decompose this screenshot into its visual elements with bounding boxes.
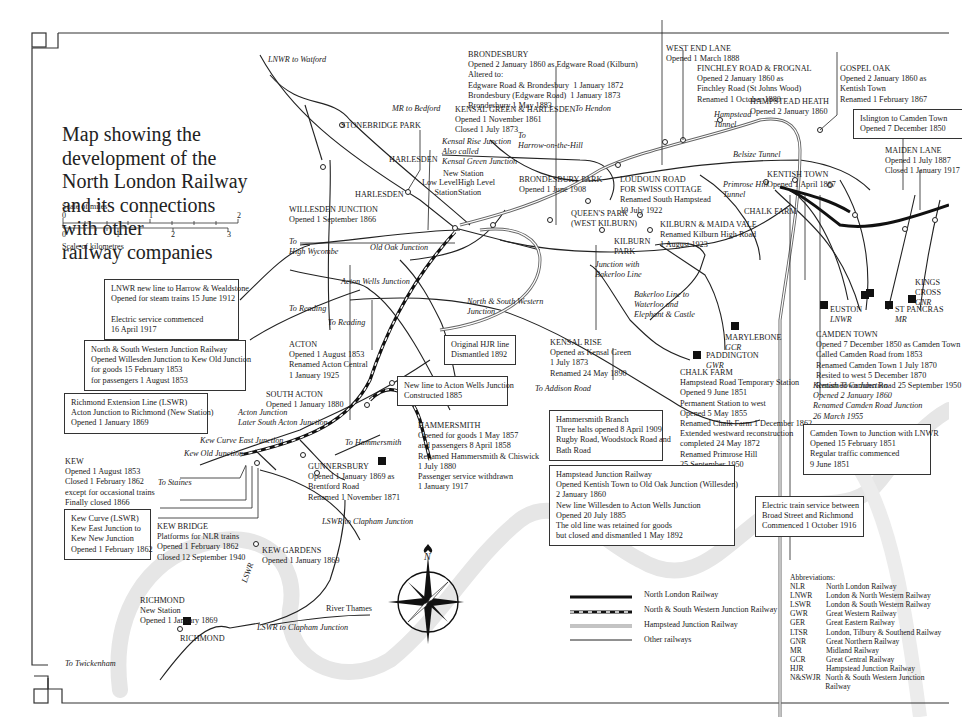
label-primrose-hill-tunnel: Primrose Hill Tunnel	[723, 180, 768, 200]
label-to-hammersmith: To Hammersmith	[345, 438, 401, 448]
station-camden-town: CAMDEN TOWNOpened 7 December 1850 as Cam…	[816, 330, 961, 391]
info-box-richmond-extension: Richmond Extension Line (LSWR) Acton Jun…	[64, 393, 208, 434]
station-richmond-new: RICHMONDNew Station Opened 1 January 186…	[140, 596, 218, 627]
scale-km-tick-2: 2	[171, 230, 175, 239]
scale-km-tick-1: 1	[116, 230, 120, 239]
label-lswr-clapham-2: LSWR to Clapham Junction	[257, 623, 348, 633]
label-to-twickenham: To Twickenham	[65, 659, 116, 669]
abbr-row: LNWRLondon & North Western Railway	[790, 591, 949, 600]
station-kilburn-maida-vale: KILBURN & MAIDA VALERenamed Kilburn High…	[660, 220, 757, 251]
station-kilburn-park: KILBURN PARK	[614, 237, 650, 257]
scale-km-tick-3: 3	[227, 230, 231, 239]
info-box-electric-service: Electric train service between Broad Str…	[755, 496, 864, 537]
info-box-camden-lnwr: Camden Town to Junction with LNWR Opened…	[803, 424, 931, 475]
station-brondesbury-park: BRONDESBURY PARKOpened 1 June 1908	[519, 175, 602, 195]
abbr-row: MRMidland Railway	[790, 646, 949, 655]
station-gunnersbury: GUNNERSBURYOpened 1 January 1869 as Bren…	[308, 462, 400, 503]
abbr-row: GNRGreat Northern Railway	[790, 637, 949, 646]
label-low-level-station: Low Level Station	[422, 178, 458, 198]
station-kew: KEWOpened 1 August 1853 Closed 1 Februar…	[65, 457, 155, 508]
station-stonebridge-park: STONEBRIDGE PARK	[341, 121, 421, 131]
station-willesden-junction: WILLESDEN JUNCTIONOpened 1 September 186…	[289, 205, 378, 225]
abbr-row: LTSRLondon, Tilbury & Southend Railway	[790, 628, 949, 637]
label-to-reading-1: To Reading	[289, 304, 326, 314]
station-hammersmith: HAMMERSMITHOpened for goods 1 May 1857 a…	[418, 421, 539, 492]
abbr-row: HJRHampstead Junction Railway	[790, 664, 949, 673]
scale-miles-tick-0: 0	[62, 211, 66, 220]
label-to-high-wycombe: To High Wycombe	[289, 237, 339, 257]
station-west-end-lane: WEST END LANEOpened 1 March 1888	[666, 44, 739, 64]
abbreviations-list: Abbreviations: NLRNorth London Railway L…	[790, 573, 949, 691]
abbr-row: N&SWJRNorth & South Western Junction Rai…	[790, 673, 949, 691]
scale-miles-label: Scale of miles	[62, 202, 107, 211]
info-box-hammersmith-branch: Hammersmith Branch Three halts opened 8 …	[549, 410, 663, 461]
station-south-acton: SOUTH ACTONOpened 1 January 1880	[266, 390, 344, 410]
label-to-addison-road: To Addison Road	[535, 384, 591, 394]
scale-km-tick-0: 0	[62, 230, 66, 239]
abbr-row: GERGreat Eastern Railway	[790, 618, 949, 627]
station-kew-bridge: KEW BRIDGEPlatforms for NLR trains Opene…	[157, 522, 245, 563]
scale-km-label: Scale of kilometres	[62, 242, 124, 251]
abbr-row: GCRGreat Central Railway	[790, 655, 949, 664]
station-kensal-green-harlesden: KENSAL GREEN & HARLESDENOpened 1 Novembe…	[455, 105, 575, 136]
station-brondesbury: BRONDESBURYOpened 2 January 1860 as Edgw…	[468, 50, 638, 111]
label-river-thames: River Thames	[326, 604, 372, 614]
label-acton-wells-junction: Acton Wells Junction	[341, 277, 410, 287]
label-old-oak-junction: Old Oak Junction	[370, 243, 428, 253]
label-high-level-station: High Level Station	[458, 178, 495, 198]
abbr-row: LSWRLondon & South Western Railway	[790, 600, 949, 609]
label-hampstead-tunnel: Hampstead Tunnel	[714, 110, 751, 130]
station-st-pancras: ST PANCRASMR	[895, 305, 943, 325]
info-box-kew-curve: Kew Curve (LSWR) Kew East Junction to Ke…	[64, 509, 151, 560]
station-euston: EUSTONLNWR	[830, 305, 862, 325]
label-kew-curve-east-junction: Kew Curve East Junction	[200, 436, 283, 446]
station-kew-gardens: KEW GARDENSOpened 1 January 1869	[262, 546, 340, 566]
label-lnwr-watford: LNWR to Watford	[268, 55, 326, 65]
label-kensal-rise-junction: Kensal Rise Junction Also called Kensal …	[442, 137, 517, 168]
compass-north-label: N	[424, 552, 431, 562]
label-lswr-clapham-1: LSWR to Clapham Junction	[322, 517, 413, 527]
label-belsize-tunnel: Belsize Tunnel	[733, 150, 781, 160]
station-chalk-farm: CHALK FARMHampstead Road Temporary Stati…	[680, 368, 812, 470]
info-box-lnwr-harrow: LNWR new line to Harrow & Wealdstone Ope…	[104, 279, 239, 340]
station-harlesden-2: HARLESDEN	[355, 190, 404, 200]
info-box-nswjr: North & South Western Junction Railway O…	[84, 340, 246, 391]
station-chalk-farm-top: CHALK FARM	[744, 207, 797, 217]
station-kensal-rise: KENSAL RISEOpened as Kensal Green 1 July…	[550, 338, 631, 379]
abbr-row: GWRGreat Western Railway	[790, 609, 949, 618]
station-kentish-town: KENTISH TOWNOpened 1 April 1867	[767, 170, 836, 190]
label-mr-bedford: MR to Bedford	[392, 104, 440, 114]
label-nsw-junction: North & South Western Junction	[467, 297, 543, 317]
scale-miles-tick-1: 1	[149, 211, 153, 220]
info-box-new-line-acton: New line to Acton Wells Junction Constru…	[397, 376, 508, 406]
label-to-staines: To Staines	[158, 478, 192, 488]
label-kew-old-junction: Kew Old Junction	[184, 449, 243, 459]
station-harlesden-1: HARLESDEN	[389, 155, 438, 165]
label-junction-bakerloo: Junction with Bakerloo Line	[595, 260, 642, 280]
station-gospel-oak: GOSPEL OAKOpened 2 January 1860 as Kenti…	[840, 64, 927, 105]
map-title: Map showing thedevelopment of theNorth L…	[62, 76, 248, 288]
label-to-reading-2: To Reading	[328, 318, 365, 328]
station-queens-park: QUEEN'S PARK (WEST KILBURN)	[571, 209, 637, 229]
label-acton-junction: Acton Junction Later South Acton Junctio…	[238, 408, 328, 428]
station-acton: ACTONOpened 1 August 1853 Renamed Acton …	[289, 340, 368, 381]
scale-miles-tick-2: 2	[237, 211, 241, 220]
station-richmond: RICHMOND	[180, 634, 225, 644]
abbreviations-title: Abbreviations:	[790, 573, 949, 582]
legend-samples	[570, 597, 632, 640]
label-bakerloo-waterloo: Bakerloo Line to Waterloo and Elephant &…	[634, 290, 695, 321]
info-box-islington-camden: Islington to Camden Town Opened 7 Decemb…	[853, 109, 962, 139]
station-hampstead-heath: HAMPSTEAD HEATHOpened 2 January 1860	[750, 97, 829, 117]
info-box-original-hjr: Original HJR line Dismantled 1892	[444, 335, 516, 365]
abbr-row: NLRNorth London Railway	[790, 582, 949, 591]
info-box-hampstead-junction-railway: Hampstead Junction Railway Opened Kentis…	[549, 465, 735, 546]
station-maiden-lane: MAIDEN LANEOpened 1 July 1887 Closed 1 J…	[885, 146, 960, 177]
